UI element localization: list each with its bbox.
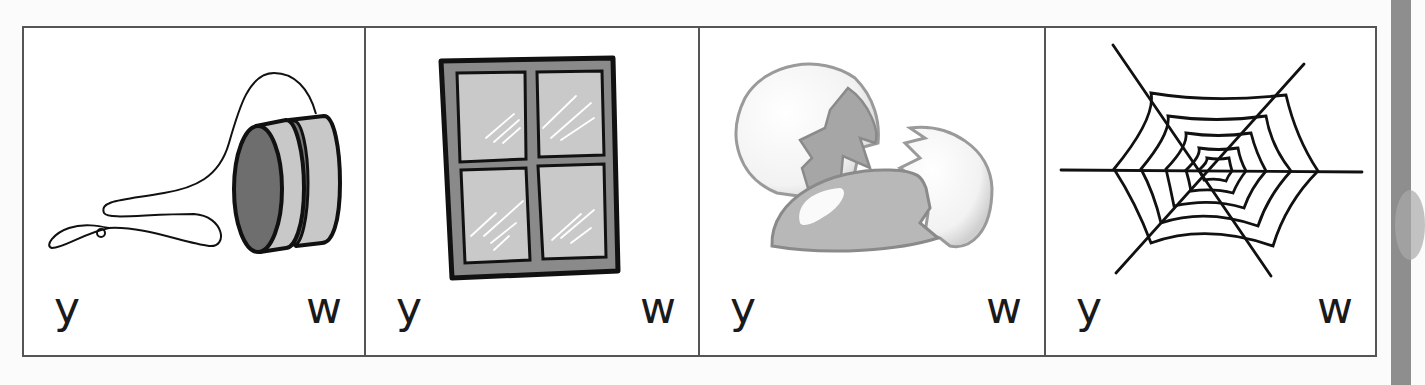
- letter-option-y[interactable]: y: [54, 286, 80, 330]
- card-egg: y w: [700, 28, 1046, 355]
- page-edge-decoration: [1395, 190, 1425, 260]
- picture-card-grid: y w y: [22, 26, 1377, 357]
- card-window: y w: [366, 28, 700, 355]
- letter-option-y[interactable]: y: [730, 286, 756, 330]
- letter-option-w[interactable]: w: [1317, 286, 1353, 330]
- letter-option-y[interactable]: y: [1076, 286, 1102, 330]
- letter-option-w[interactable]: w: [640, 286, 676, 330]
- card-spider-web: y w: [1046, 28, 1375, 355]
- letter-option-w[interactable]: w: [306, 286, 342, 330]
- letter-option-y[interactable]: y: [396, 286, 422, 330]
- page-edge-strip: [1391, 0, 1411, 385]
- card-yo-yo: y w: [24, 28, 366, 355]
- letter-option-w[interactable]: w: [986, 286, 1022, 330]
